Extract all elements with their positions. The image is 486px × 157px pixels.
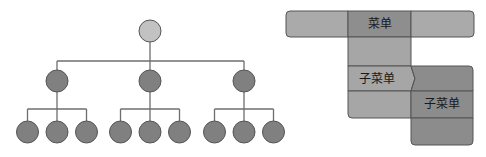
menu-bar-label: 菜单 xyxy=(368,17,392,31)
tree-node-leaf-3-3 xyxy=(263,121,285,143)
tree-node-leaf-2-2 xyxy=(139,121,161,143)
tree-node-leaf-2-1 xyxy=(110,121,132,143)
tree-node-leaf-2-3 xyxy=(169,121,191,143)
tree-node-child-2 xyxy=(139,70,161,92)
diagram-canvas: 菜单 子菜单 子菜单 xyxy=(0,0,486,157)
submenu: 子菜单 xyxy=(411,66,473,145)
tree-node-leaf-1-1 xyxy=(17,121,39,143)
tree-node-leaf-3-1 xyxy=(204,121,226,143)
dropdown-item-3[interactable] xyxy=(348,91,411,118)
tree-node-root xyxy=(139,20,161,42)
dropdown-item-submenu-label: 子菜单 xyxy=(359,72,395,86)
tree-node-leaf-1-2 xyxy=(46,121,68,143)
submenu-item-3[interactable] xyxy=(411,118,473,145)
menu-bar: 菜单 xyxy=(286,11,474,37)
tree-node-leaf-3-2 xyxy=(233,121,255,143)
tree-node-child-3 xyxy=(233,70,255,92)
dropdown-menu: 子菜单 xyxy=(348,37,415,118)
submenu-item-label: 子菜单 xyxy=(424,97,460,111)
submenu-item-1[interactable] xyxy=(411,66,473,91)
menu-bar-item-1[interactable] xyxy=(286,11,348,37)
tree-node-leaf-1-3 xyxy=(76,121,98,143)
tree-node-child-1 xyxy=(46,70,68,92)
dropdown-item-1[interactable] xyxy=(348,37,411,66)
tree-diagram xyxy=(17,20,285,143)
menu-bar-item-3[interactable] xyxy=(411,11,474,37)
menu-diagram: 菜单 子菜单 子菜单 xyxy=(286,11,474,145)
